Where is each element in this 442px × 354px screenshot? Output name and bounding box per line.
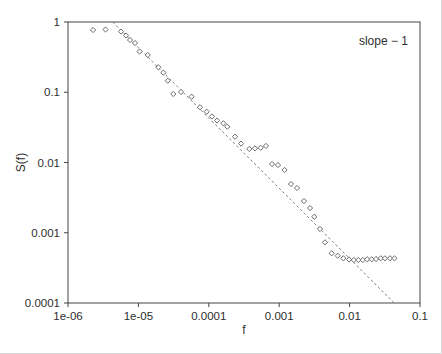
- x-axis-tick-label: 0.01: [338, 310, 360, 322]
- data-point-marker: [214, 118, 219, 123]
- data-point-marker: [312, 214, 317, 219]
- data-point-marker: [322, 240, 327, 245]
- x-axis-tick-label: 1e-05: [124, 310, 153, 322]
- data-point-marker: [373, 256, 378, 261]
- data-point-marker: [103, 27, 108, 32]
- data-point-marker: [189, 94, 194, 99]
- data-point-marker: [225, 124, 230, 129]
- data-point-marker: [204, 109, 209, 114]
- x-axis-tick-label: 0.0001: [191, 310, 226, 322]
- data-point-marker: [145, 52, 150, 57]
- data-point-marker: [209, 114, 214, 119]
- data-point-marker: [252, 146, 257, 151]
- data-point-marker: [269, 161, 274, 166]
- data-point-marker: [329, 251, 334, 256]
- data-point-marker: [282, 167, 287, 172]
- data-point-marker: [275, 162, 280, 167]
- x-axis-tick-label: 0.1: [412, 310, 428, 322]
- data-point-marker: [178, 89, 183, 94]
- data-point-marker: [346, 257, 351, 262]
- data-point-marker: [335, 253, 340, 258]
- data-point-marker: [118, 29, 123, 34]
- data-point-marker: [392, 256, 397, 261]
- data-point-marker: [132, 40, 137, 45]
- data-point-marker: [221, 121, 226, 126]
- y-axis-tick-label: 0.001: [31, 227, 60, 239]
- slope-annotation: slope − 1: [359, 34, 408, 48]
- data-point-marker: [307, 205, 312, 210]
- data-point-marker: [90, 27, 95, 32]
- y-axis-tick-label: 0.0001: [25, 297, 60, 309]
- data-point-marker: [238, 141, 243, 146]
- x-axis-tick-label: 1e-06: [53, 310, 82, 322]
- x-axis-title: f: [242, 323, 246, 337]
- data-point-marker: [360, 257, 365, 262]
- x-axis-tick-label: 0.001: [265, 310, 294, 322]
- data-points: [90, 27, 397, 263]
- y-axis-title: S(f): [14, 153, 28, 172]
- power-spectrum-figure: 1e-061e-050.00010.0010.010.110.10.010.00…: [0, 0, 442, 354]
- y-axis-tick-label: 0.1: [44, 86, 60, 98]
- data-point-marker: [197, 105, 202, 110]
- data-point-marker: [161, 70, 166, 75]
- data-point-marker: [294, 185, 299, 190]
- data-point-marker: [247, 146, 252, 151]
- data-point-marker: [232, 134, 237, 139]
- data-point-marker: [288, 181, 293, 186]
- data-point-marker: [171, 91, 176, 96]
- y-axis-tick-label: 0.01: [38, 157, 60, 169]
- chart-canvas: 1e-061e-050.00010.0010.010.110.10.010.00…: [0, 0, 442, 354]
- data-point-marker: [341, 256, 346, 261]
- y-axis-tick-label: 1: [54, 16, 60, 28]
- data-point-marker: [258, 145, 263, 150]
- data-point-marker: [137, 49, 142, 54]
- data-point-marker: [301, 198, 306, 203]
- data-point-marker: [263, 143, 268, 148]
